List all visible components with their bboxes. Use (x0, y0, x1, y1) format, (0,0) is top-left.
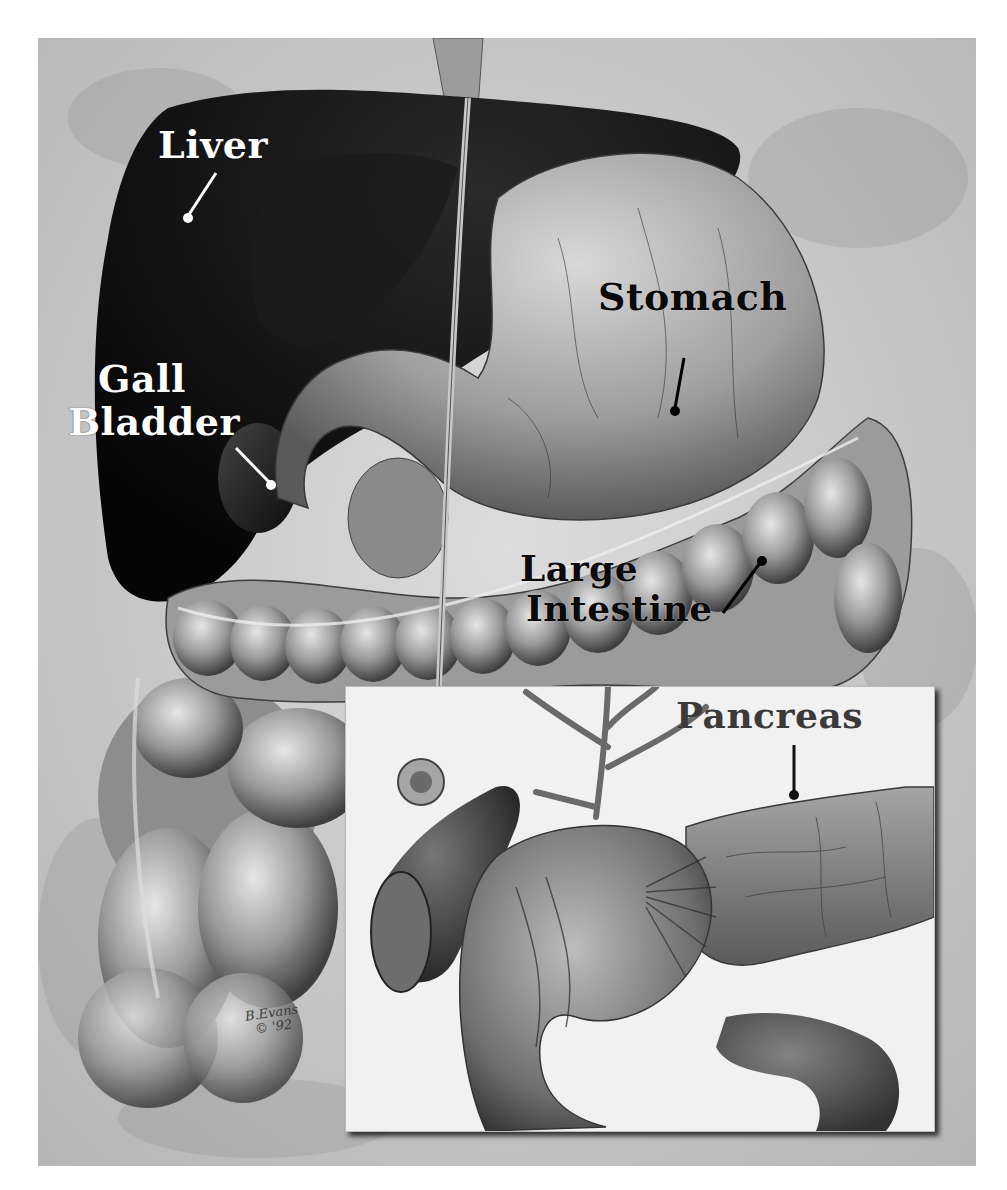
pancreas (686, 787, 934, 965)
illustration-canvas: Liver Gall Bladder Stomach Large Intesti… (38, 38, 976, 1166)
pancreas-head-main (348, 458, 448, 578)
label-gall-bladder-line1: Gall (98, 360, 186, 398)
label-pancreas: Pancreas (676, 697, 863, 733)
label-gall-bladder-line2: Bladder (68, 403, 240, 441)
pancreas-inset-illustration (346, 687, 934, 1131)
label-large-intestine-line2: Intestine (526, 590, 713, 626)
label-stomach: Stomach (598, 278, 787, 316)
label-large-intestine-line1: Large (520, 550, 638, 586)
duodenum (460, 826, 712, 1131)
pancreas-inset-panel: Pancreas (345, 686, 935, 1132)
label-liver: Liver (158, 126, 268, 164)
